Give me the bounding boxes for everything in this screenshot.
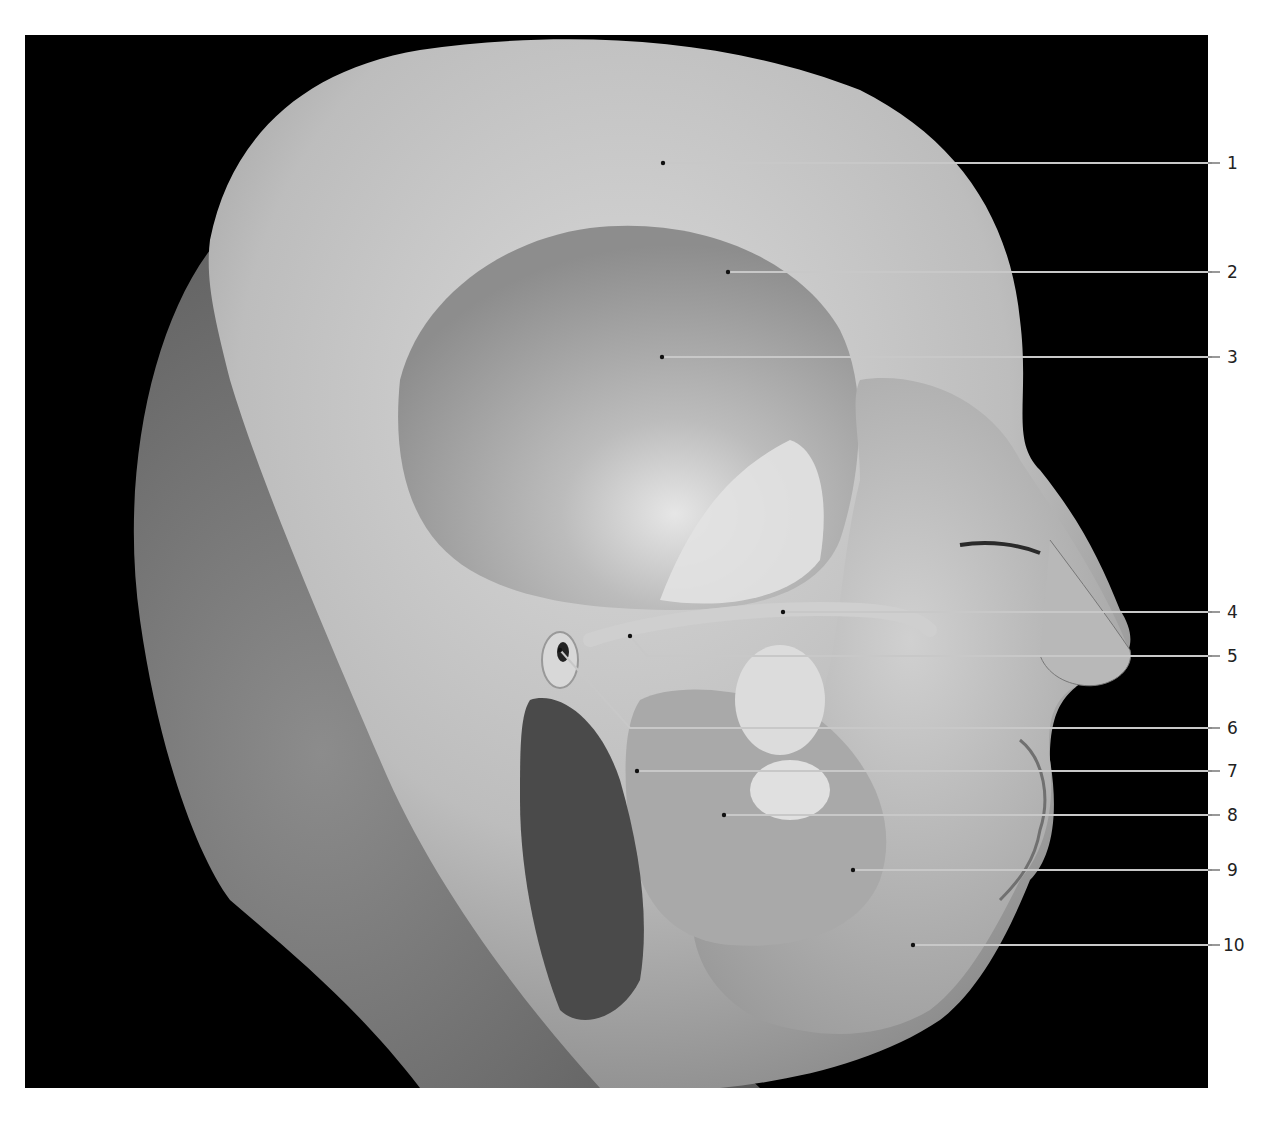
label-9: 9 — [1227, 862, 1238, 879]
label-8: 8 — [1227, 807, 1238, 824]
head-illustration — [0, 0, 1273, 1123]
anatomy-figure: 1 2 3 4 5 6 7 8 9 10 — [0, 0, 1273, 1123]
buccal-fat — [750, 760, 830, 820]
parotid-duct-region — [735, 645, 825, 755]
label-3: 3 — [1227, 349, 1238, 366]
label-6: 6 — [1227, 720, 1238, 737]
label-2: 2 — [1227, 264, 1238, 281]
label-10: 10 — [1223, 937, 1245, 954]
label-7: 7 — [1227, 763, 1238, 780]
label-4: 4 — [1227, 604, 1238, 621]
label-5: 5 — [1227, 648, 1238, 665]
label-1: 1 — [1227, 155, 1238, 172]
